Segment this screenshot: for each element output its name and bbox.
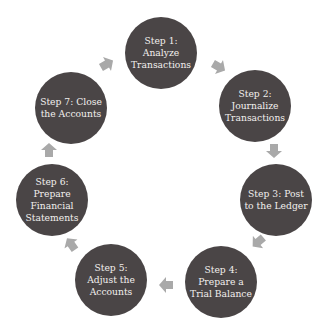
step-7-label: Step 7: Close the Accounts (39, 96, 103, 120)
step-2-node: Step 2: Journalize Transactions (219, 70, 291, 142)
step-1-node: Step 1: Analyze Transactions (125, 17, 197, 89)
step-3-label: Step 3: Post to the Ledger (244, 188, 308, 212)
step-4-node: Step 4: Prepare a Trial Balance (185, 246, 257, 318)
arrow-right-icon (208, 56, 230, 78)
accounting-cycle-diagram: Step 1: Analyze Transactions Step 2: Jou… (0, 0, 330, 329)
arrow-right-icon (60, 233, 82, 255)
arrow-right-icon (41, 142, 57, 158)
step-4-label: Step 4: Prepare a Trial Balance (189, 264, 253, 300)
step-2-label: Step 2: Journalize Transactions (223, 88, 287, 124)
step-6-node: Step 6: Prepare Financial Statements (16, 164, 88, 236)
step-3-node: Step 3: Post to the Ledger (240, 164, 312, 236)
step-5-node: Step 5: Adjust the Accounts (75, 244, 147, 316)
step-1-label: Step 1: Analyze Transactions (129, 35, 193, 71)
arrow-right-icon (158, 277, 174, 293)
arrow-right-icon (266, 143, 282, 159)
step-6-label: Step 6: Prepare Financial Statements (20, 176, 84, 224)
arrow-right-icon (96, 53, 118, 75)
step-5-label: Step 5: Adjust the Accounts (79, 262, 143, 298)
step-7-node: Step 7: Close the Accounts (35, 72, 107, 144)
